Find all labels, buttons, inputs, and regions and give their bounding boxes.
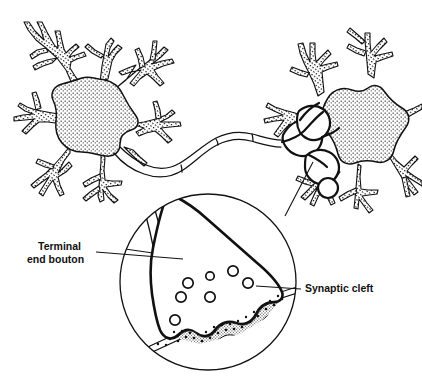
label-terminal-end-bouton-line1: Terminal [38, 240, 81, 252]
label-synaptic-cleft: Synaptic cleft [305, 282, 374, 294]
synapse-diagram: Terminal end bouton Synaptic cleft [0, 0, 422, 385]
vesicle [206, 272, 214, 280]
figure-canvas: Terminal end bouton Synaptic cleft [0, 0, 422, 385]
vesicle [243, 278, 253, 288]
vesicle [176, 292, 186, 302]
vesicle [205, 292, 215, 302]
vesicle [228, 266, 238, 276]
vesicle [183, 278, 193, 288]
label-terminal-end-bouton-line2: end bouton [27, 253, 84, 265]
vesicle [170, 315, 180, 325]
